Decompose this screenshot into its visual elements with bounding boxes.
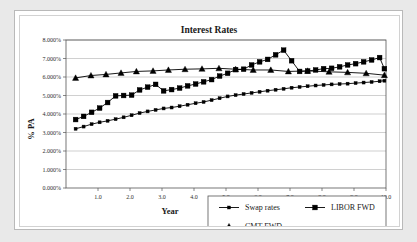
y-tick-labels: 0.000%1.000%2.000%3.000%4.000%5.000%6.00… (43, 37, 62, 191)
gridlines (66, 40, 386, 170)
x-tick-label: 4.0 (190, 194, 198, 200)
y-tick-label: 2.000% (43, 148, 62, 154)
y-tick-marks (63, 40, 66, 188)
y-tick-label: 8.000% (43, 37, 62, 43)
y-axis-label: % PA (26, 117, 36, 139)
x-tick-marks (98, 188, 386, 191)
legend-label: CMT FWD (245, 222, 282, 226)
y-tick-label: 0.000% (43, 185, 62, 191)
chart-title: Interest Rates (181, 25, 238, 35)
chart-outer-frame: Interest Rates % PA Year 0.000%1.000%2.0… (14, 10, 403, 230)
x-tick-label: 2.0 (126, 194, 134, 200)
interest-rates-chart: Interest Rates % PA Year 0.000%1.000%2.0… (20, 16, 399, 226)
x-tick-label: 3.0 (158, 194, 166, 200)
y-tick-label: 3.000% (43, 130, 62, 136)
data-series-layer (73, 48, 388, 131)
chart-plate: Interest Rates % PA Year 0.000%1.000%2.0… (19, 15, 400, 227)
y-tick-label: 5.000% (43, 93, 62, 99)
y-tick-label: 1.000% (43, 167, 62, 173)
chart-page: Interest Rates % PA Year 0.000%1.000%2.0… (0, 0, 417, 242)
y-tick-label: 6.000% (43, 74, 62, 80)
legend-label: Swap rates (245, 203, 280, 212)
x-tick-label: 1.0 (94, 194, 102, 200)
series-swap-rates (74, 79, 386, 130)
y-tick-label: 4.000% (43, 111, 62, 117)
chart-legend: Swap ratesLIBOR FWDCMT FWD (208, 196, 386, 226)
legend-label: LIBOR FWD (331, 203, 375, 212)
x-axis-label: Year (162, 206, 179, 216)
y-tick-label: 7.000% (43, 56, 62, 62)
